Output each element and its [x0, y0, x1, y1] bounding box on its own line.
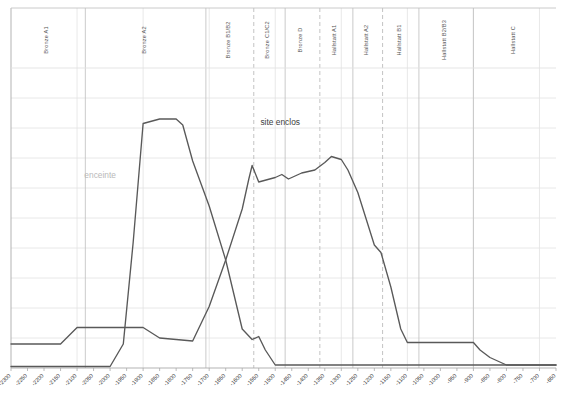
- annotation-label: enceinte: [84, 170, 116, 180]
- period-label: Bronze B1/B2: [225, 22, 231, 59]
- period-label: Bronze D: [297, 28, 303, 53]
- period-label: Hallstatt A2: [363, 25, 369, 56]
- chart-container: Bronze A1Bronze A2Bronze B1/B2Bronze C1/…: [0, 0, 565, 403]
- annotation-label: site enclos: [260, 117, 300, 127]
- archaeology-period-line-chart: Bronze A1Bronze A2Bronze B1/B2Bronze C1/…: [0, 0, 565, 403]
- period-label: Bronze A2: [141, 26, 147, 54]
- period-label: Hallstatt B2/B3: [441, 20, 447, 60]
- chart-background: [0, 0, 565, 403]
- period-label: Hallstatt B1: [396, 24, 402, 55]
- period-label: Bronze A1: [43, 26, 49, 54]
- period-label: Hallstatt C: [510, 26, 516, 54]
- period-label: Bronze C1/C2: [264, 21, 270, 59]
- period-label: Hallstatt A1: [331, 25, 337, 56]
